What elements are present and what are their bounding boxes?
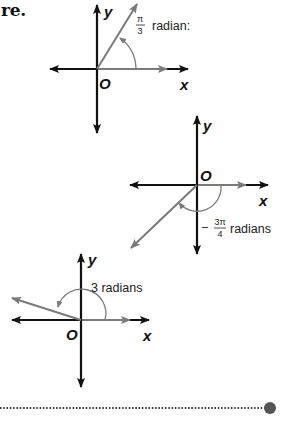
y-axis-label: y	[202, 117, 212, 134]
x-axis-label: x	[258, 192, 268, 209]
diagram-3-radians: y x O 3 radians	[12, 251, 152, 387]
radian-angle-diagrams: y x O π 3 radian: y x O − 3π 4 radians y…	[0, 0, 290, 425]
angle-sign: −	[201, 221, 208, 235]
terminal-side-ray	[97, 4, 137, 69]
diagram-pi-over-3: y x O π 3 radian:	[50, 3, 190, 133]
origin-label: O	[66, 326, 78, 343]
y-axis-label: y	[87, 251, 97, 268]
angle-denominator: 3	[137, 26, 142, 36]
angle-arc	[179, 185, 221, 211]
angle-numerator: 3π	[214, 217, 225, 227]
angle-unit-label: radian:	[152, 19, 190, 33]
x-axis-label: x	[142, 327, 152, 344]
angle-label: 3 radians	[91, 281, 142, 295]
x-axis-label: x	[179, 76, 189, 93]
angle-numerator: π	[137, 14, 143, 24]
origin-label: O	[99, 75, 111, 92]
divider-end-dot	[264, 402, 276, 414]
angle-arc	[120, 38, 136, 69]
diagram-neg-3pi-over-4: y x O − 3π 4 radians	[130, 116, 271, 254]
terminal-side-ray	[131, 185, 197, 248]
angle-unit-label: radians	[230, 222, 271, 236]
angle-denominator: 4	[217, 229, 222, 239]
y-axis-label: y	[103, 3, 113, 20]
origin-label: O	[200, 167, 212, 184]
terminal-side-ray	[12, 298, 81, 320]
